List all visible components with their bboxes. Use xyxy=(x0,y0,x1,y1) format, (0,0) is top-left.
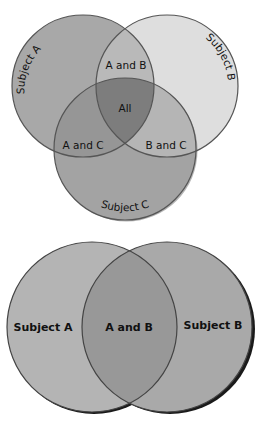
label-subject-a-2: Subject A xyxy=(14,321,73,334)
venn-diagrams-canvas: Subject A Subject B Subject C A and B Al… xyxy=(0,0,267,426)
label-subject-b-2: Subject B xyxy=(184,319,243,332)
label-a-and-b-2: A and B xyxy=(105,321,153,334)
two-set-venn: Subject A A and B Subject B xyxy=(7,242,255,414)
label-all: All xyxy=(118,102,131,114)
label-b-and-c: B and C xyxy=(146,139,187,151)
label-a-and-b: A and B xyxy=(106,59,147,71)
label-a-and-c: A and C xyxy=(63,139,104,151)
three-set-venn: Subject A Subject B Subject C A and B Al… xyxy=(12,15,238,222)
